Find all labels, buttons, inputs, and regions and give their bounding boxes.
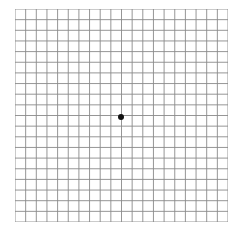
center-fixation-dot <box>118 114 124 120</box>
